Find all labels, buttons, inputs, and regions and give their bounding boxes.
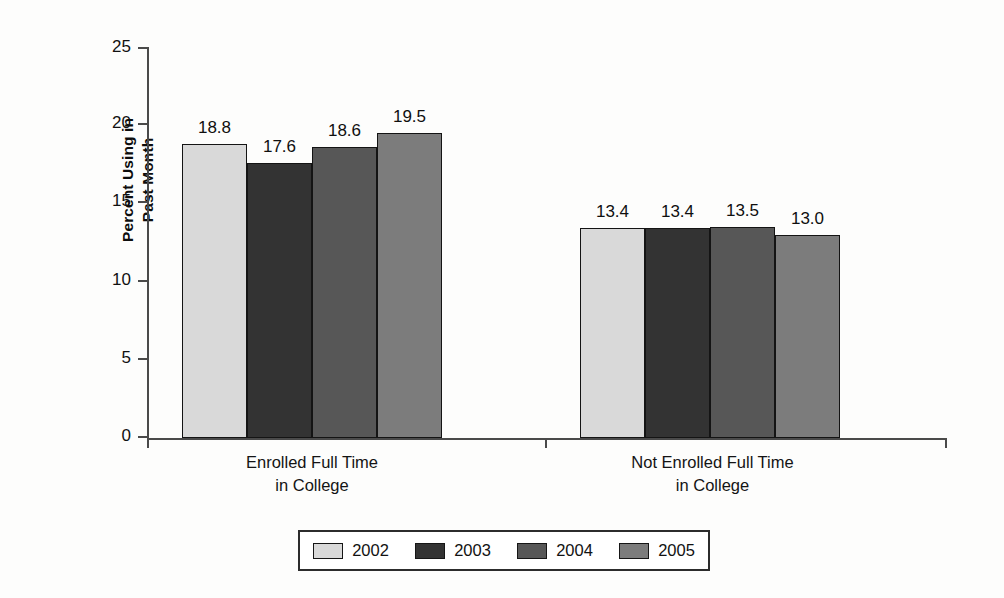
y-axis-tick-0: 0 [138,436,147,438]
legend-swatch-icon [415,543,445,559]
group-label-line-2: in College [676,474,749,497]
bar-group-1-series-2004: 18.6 [312,147,377,438]
group-label-line-2: in College [275,474,348,497]
bar-group-2-series-2003: 13.4 [645,228,710,438]
y-axis-line [147,47,149,438]
bar-value-label: 13.4 [596,202,629,222]
x-axis-group-label-enrolled-full-time: Enrolled Full Time in College [212,451,412,497]
legend-swatch-icon [313,543,343,559]
y-axis-tick-5: 5 [138,358,147,360]
legend: 2002 2003 2004 2005 [298,530,710,571]
x-axis-tick-group-separator [545,438,547,448]
bar-group-2-series-2005: 13.0 [775,235,840,438]
x-axis-tick-start [147,438,149,448]
bar-value-label: 13.0 [791,209,824,229]
x-axis-line [147,438,947,440]
y-axis-title-line-1: Percent Using in [118,118,138,242]
bar-group-2-series-2004: 13.5 [710,227,775,438]
bar-value-label: 17.6 [263,137,296,157]
legend-label: 2003 [454,541,491,560]
bar-group-1-series-2005: 19.5 [377,133,442,438]
plot-area: 0 5 10 15 20 25 18.8 17.6 18.6 [147,47,947,438]
y-axis-tick-20: 20 [138,123,147,125]
y-axis-tick-label-0: 0 [122,425,131,447]
legend-item-2003: 2003 [415,541,491,560]
group-label-line-1: Not Enrolled Full Time [631,451,793,474]
group-label-line-1: Enrolled Full Time [246,451,378,474]
bar-value-label: 18.8 [198,118,231,138]
x-axis-group-label-not-enrolled-full-time: Not Enrolled Full Time in College [600,451,825,497]
y-axis-tick-label-15: 15 [112,190,131,212]
bar-group-2-series-2002: 13.4 [580,228,645,438]
bar-value-label: 13.5 [726,201,759,221]
legend-item-2004: 2004 [517,541,593,560]
legend-label: 2002 [352,541,389,560]
bar-value-label: 19.5 [393,107,426,127]
legend-item-2002: 2002 [313,541,389,560]
y-axis-tick-10: 10 [138,280,147,282]
bar-chart: Percent Using in Past Month 0 5 10 15 20… [0,0,1004,598]
legend-swatch-icon [517,543,547,559]
legend-item-2005: 2005 [619,541,695,560]
legend-label: 2005 [658,541,695,560]
y-axis-tick-label-25: 25 [112,36,131,58]
legend-label: 2004 [556,541,593,560]
y-axis-tick-label-20: 20 [112,112,131,134]
y-axis-tick-15: 15 [138,201,147,203]
y-axis-tick-25: 25 [138,47,147,49]
bar-value-label: 13.4 [661,202,694,222]
y-axis-tick-label-5: 5 [122,347,131,369]
legend-swatch-icon [619,543,649,559]
x-axis-tick-end [945,438,947,448]
bar-group-1-series-2002: 18.8 [182,144,247,438]
y-axis-tick-label-10: 10 [112,269,131,291]
bar-value-label: 18.6 [328,121,361,141]
bar-group-1-series-2003: 17.6 [247,163,312,438]
